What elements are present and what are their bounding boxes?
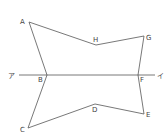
point-label-e: E [146,111,150,119]
point-labels: AHGBFCDE [20,18,151,134]
line-label-left: ア [8,72,15,80]
point-label-b: B [38,76,43,84]
point-label-f: F [140,76,144,84]
geometry-diagram: AHGBFCDE ア イ [0,0,168,137]
point-label-c: C [20,126,25,134]
line-label-right: イ [157,72,164,80]
point-label-h: H [93,36,98,44]
point-label-g: G [146,34,151,42]
point-label-d: D [92,106,97,114]
point-label-a: A [20,18,25,26]
